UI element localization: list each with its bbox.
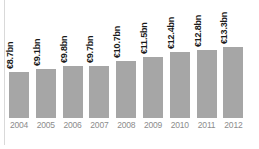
x-tick-label: 2005 xyxy=(33,120,59,130)
bar-group: €12.8bn xyxy=(197,0,217,118)
x-tick-label: 2007 xyxy=(86,120,112,130)
plot-area: €8.7bn€9.1bn€9.8bn€9.7bn€10.7bn€11.5bn€1… xyxy=(9,0,259,118)
x-tick-label: 2008 xyxy=(113,120,139,130)
x-tick-label: 2004 xyxy=(6,120,32,130)
bar-group: €12.4bn xyxy=(170,0,190,118)
bar[interactable] xyxy=(197,50,217,118)
bar-value-label: €13.3bn xyxy=(219,12,229,44)
x-tick-label: 2006 xyxy=(60,120,86,130)
x-tick-label: 2011 xyxy=(194,120,220,130)
bar-value-label: €11.5bn xyxy=(139,22,149,54)
bar-value-label: €12.4bn xyxy=(166,17,176,49)
bar-group: €9.7bn xyxy=(89,0,109,118)
bar[interactable] xyxy=(170,52,190,118)
bar-value-label: €8.7bn xyxy=(5,41,15,68)
x-tick-label: 2010 xyxy=(167,120,193,130)
bar[interactable] xyxy=(9,72,29,118)
left-axis-line xyxy=(4,0,5,145)
bar-value-label: €9.7bn xyxy=(85,36,95,63)
bar-chart: €8.7bn€9.1bn€9.8bn€9.7bn€10.7bn€11.5bn€1… xyxy=(0,0,259,149)
bar-value-label: €9.8bn xyxy=(59,35,69,62)
bar-value-label: €12.8bn xyxy=(193,15,203,47)
x-tick-label: 2012 xyxy=(220,120,246,130)
bar[interactable] xyxy=(89,66,109,118)
bar-value-label: €9.1bn xyxy=(32,39,42,66)
bar-group: €10.7bn xyxy=(116,0,136,118)
x-axis-tick-labels: 200420052006200720082009201020112012 xyxy=(9,120,259,134)
bar-group: €9.8bn xyxy=(63,0,83,118)
bar-group: €13.3bn xyxy=(223,0,243,118)
bar[interactable] xyxy=(143,57,163,118)
x-tick-label: 2009 xyxy=(140,120,166,130)
bar-group: €8.7bn xyxy=(9,0,29,118)
bar[interactable] xyxy=(116,61,136,118)
bar-value-label: €10.7bn xyxy=(112,26,122,58)
bar-group: €11.5bn xyxy=(143,0,163,118)
bar[interactable] xyxy=(36,69,56,118)
bar[interactable] xyxy=(63,66,83,118)
bar-group: €9.1bn xyxy=(36,0,56,118)
bar[interactable] xyxy=(223,47,243,118)
